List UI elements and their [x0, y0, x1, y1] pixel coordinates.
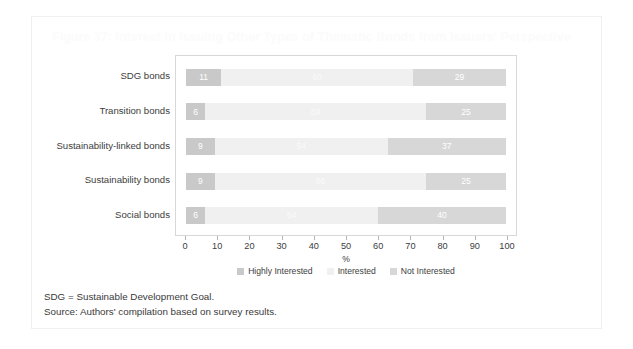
legend-item[interactable]: Highly Interested: [237, 266, 313, 276]
legend-swatch-icon: [237, 268, 244, 275]
bar-segment-value: 25: [461, 177, 470, 186]
y-axis-label: Sustainability-linked bonds: [5, 140, 170, 152]
y-axis-label: Social bonds: [5, 209, 170, 221]
bar-segment: 40: [378, 207, 506, 224]
bar-segment-value: 66: [316, 177, 325, 186]
figure-notes: SDG = Sustainable Development Goal.Sourc…: [44, 289, 544, 319]
bar-segment-value: 6: [193, 108, 198, 117]
y-axis-category-labels: SDG bondsTransition bondsSustainability-…: [0, 55, 170, 236]
bar-segment-value: 25: [461, 108, 470, 117]
bar-segment: 25: [426, 103, 506, 120]
x-axis-tick: [314, 236, 315, 240]
x-axis-tick-label: 20: [244, 241, 254, 252]
x-axis-tick: [217, 236, 218, 240]
bar-segment-value: 54: [296, 142, 305, 151]
bar-segment-value: 40: [437, 211, 446, 220]
plot-panel: 11602966925954379662565440: [175, 55, 517, 236]
x-axis-tick-label: 50: [341, 241, 351, 252]
legend-item[interactable]: Interested: [327, 266, 376, 276]
x-axis-tick-label: 40: [309, 241, 319, 252]
bar-track: 95437: [186, 138, 506, 155]
bar-segment: 9: [186, 138, 215, 155]
legend-swatch-icon: [327, 268, 334, 275]
x-axis-tick: [185, 236, 186, 240]
bar-track: 96625: [186, 173, 506, 190]
x-axis-tick: [282, 236, 283, 240]
x-axis-tick-label: 70: [405, 241, 415, 252]
bars-layer: 11602966925954379662565440: [186, 60, 506, 231]
legend-label: Interested: [338, 266, 376, 276]
bar-segment: 69: [205, 103, 426, 120]
chart-legend: Highly InterestedInterestedNot Intereste…: [175, 264, 517, 278]
bar-segment: 60: [221, 69, 413, 86]
bar-segment-value: 37: [442, 142, 451, 151]
bar-segment-value: 11: [199, 73, 208, 82]
x-axis-tick-label: 100: [499, 241, 514, 252]
bar-row: 116029: [186, 69, 506, 86]
bar-segment-value: 9: [198, 177, 203, 186]
legend-swatch-icon: [390, 268, 397, 275]
x-axis-tick: [378, 236, 379, 240]
bar-segment: 54: [205, 207, 378, 224]
bar-segment: 25: [426, 173, 506, 190]
y-axis-label: Transition bonds: [5, 105, 170, 117]
bar-segment: 54: [215, 138, 388, 155]
bar-segment-value: 6: [193, 211, 198, 220]
bar-segment-value: 60: [312, 73, 321, 82]
x-axis: % 0102030405060708090100: [175, 236, 517, 266]
bar-segment-value: 9: [198, 142, 203, 151]
x-axis-tick-label: 30: [276, 241, 286, 252]
bar-segment: 6: [186, 207, 205, 224]
x-axis-tick-label: 90: [470, 241, 480, 252]
chart-title: Figure 37: Interest in Issuing Other Typ…: [52, 28, 587, 46]
bar-segment: 66: [215, 173, 426, 190]
legend-label: Highly Interested: [248, 266, 313, 276]
bar-segment-value: 69: [311, 108, 320, 117]
bar-row: 65440: [186, 207, 506, 224]
bar-segment-value: 29: [455, 73, 464, 82]
bar-segment: 6: [186, 103, 205, 120]
x-axis-tick-label: 10: [212, 241, 222, 252]
y-axis-label: Sustainability bonds: [5, 174, 170, 186]
bar-segment: 11: [186, 69, 221, 86]
bar-segment: 37: [388, 138, 506, 155]
x-axis-tick: [443, 236, 444, 240]
bar-row: 96625: [186, 173, 506, 190]
bar-row: 66925: [186, 103, 506, 120]
bar-row: 95437: [186, 138, 506, 155]
bar-track: 66925: [186, 103, 506, 120]
x-axis-tick: [410, 236, 411, 240]
figure-note-line: Source: Authors' compilation based on su…: [44, 304, 544, 319]
figure-root: Figure 37: Interest in Issuing Other Typ…: [0, 0, 633, 349]
x-axis-tick: [346, 236, 347, 240]
x-axis-tick: [475, 236, 476, 240]
x-axis-title: %: [342, 254, 350, 264]
bar-track: 65440: [186, 207, 506, 224]
y-axis-label: SDG bonds: [5, 70, 170, 82]
bar-track: 116029: [186, 69, 506, 86]
bar-segment-value: 54: [287, 211, 296, 220]
x-axis-tick-label: 60: [373, 241, 383, 252]
bar-segment: 29: [413, 69, 506, 86]
x-axis-tick-label: 0: [182, 241, 187, 252]
x-axis-tick: [249, 236, 250, 240]
legend-item[interactable]: Not Interested: [390, 266, 455, 276]
figure-note-line: SDG = Sustainable Development Goal.: [44, 289, 544, 304]
legend-label: Not Interested: [401, 266, 455, 276]
x-axis-tick-label: 80: [437, 241, 447, 252]
x-axis-tick: [507, 236, 508, 240]
bar-segment: 9: [186, 173, 215, 190]
